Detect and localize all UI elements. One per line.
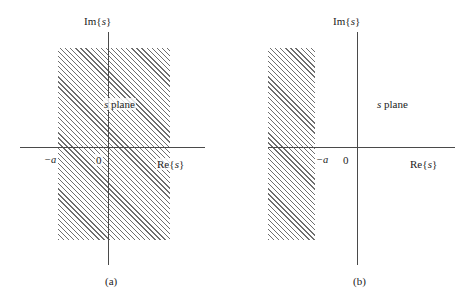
panel-a: Im{s} Re{s} s plane −a 0 (a) <box>0 0 235 302</box>
sigma-value-a: −a <box>44 154 56 165</box>
im-prefix-a: Im <box>84 15 96 27</box>
origin-value-b: 0 <box>343 154 349 166</box>
re-prefix-a: Re <box>157 158 169 170</box>
plane-variable-a: s <box>104 98 108 110</box>
subfigure-caption-a: (a) <box>105 276 117 287</box>
shaded-roc-region-a <box>58 48 170 240</box>
sigma-tick-label-b: −a <box>316 155 328 166</box>
caption-text-b: (b) <box>353 275 366 287</box>
re-group-a: Re{s} <box>156 158 185 170</box>
figure-container: Im{s} Re{s} s plane −a 0 (a) Im{s} Re{s} <box>0 0 469 302</box>
origin-label-b: 0 <box>343 155 349 166</box>
re-close-brace-b: } <box>432 158 437 170</box>
plane-variable-b: s <box>377 98 381 110</box>
im-close-brace-b: } <box>355 15 360 27</box>
imaginary-axis-a <box>108 32 109 265</box>
subfigure-caption-b: (b) <box>353 276 366 287</box>
real-axis-label-a: Re{s} <box>156 159 185 170</box>
origin-value-a: 0 <box>95 154 103 166</box>
sigma-tick-label-a: −a <box>44 155 56 166</box>
imaginary-axis-b <box>357 32 358 265</box>
im-prefix-b: Im <box>333 15 345 27</box>
im-close-brace-a: } <box>106 15 111 27</box>
real-axis-label-b: Re{s} <box>410 159 437 170</box>
plane-label-b: s plane <box>377 99 408 110</box>
imaginary-axis-label-b: Im{s} <box>333 16 360 27</box>
imaginary-axis-label-a: Im{s} <box>84 16 111 27</box>
plane-word-b: plane <box>384 98 408 110</box>
origin-label-a: 0 <box>95 155 103 166</box>
caption-text-a: (a) <box>105 275 117 287</box>
re-prefix-b: Re <box>410 158 422 170</box>
shaded-roc-region-b <box>268 48 315 240</box>
re-close-brace-a: } <box>179 158 184 170</box>
plane-group-a: s plane <box>103 98 136 110</box>
real-axis-b <box>268 147 455 148</box>
sigma-value-b: −a <box>316 154 328 165</box>
panel-b: Im{s} Re{s} s plane −a 0 (b) <box>235 0 469 302</box>
plane-word-a: plane <box>111 98 135 110</box>
real-axis-a <box>20 147 205 148</box>
plane-label-a: s plane <box>103 99 136 110</box>
